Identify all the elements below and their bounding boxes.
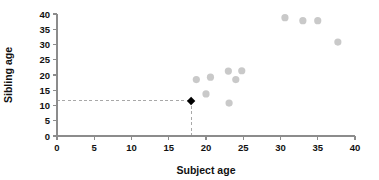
y-tick-label: 5 (45, 115, 51, 126)
y-tick-label: 20 (39, 70, 50, 81)
x-tick-label: 5 (92, 142, 98, 153)
y-axis-title: Sibling age (2, 47, 14, 103)
x-axis-ticks: 0510152025303540 (54, 136, 360, 153)
data-point (314, 17, 321, 24)
highlighted-data-point (187, 97, 195, 105)
data-point (207, 74, 214, 81)
y-tick-label: 0 (45, 131, 50, 142)
y-axis-ticks: 0510152025303540 (39, 9, 57, 142)
x-axis-title: Subject age (177, 164, 236, 176)
data-point (238, 67, 245, 74)
y-tick-label: 15 (39, 85, 50, 96)
x-tick-label: 25 (238, 142, 249, 153)
data-point (202, 90, 209, 97)
y-tick-label: 35 (39, 24, 50, 35)
axes-group: 0510152025303540 0510152025303540 (39, 9, 360, 154)
x-tick-label: 35 (312, 142, 323, 153)
x-tick-label: 40 (350, 142, 361, 153)
x-tick-label: 15 (163, 142, 174, 153)
data-point (225, 99, 232, 106)
data-point (299, 17, 306, 24)
data-point (334, 38, 341, 45)
guide-lines-group (57, 101, 191, 136)
x-tick-label: 10 (126, 142, 137, 153)
y-tick-label: 10 (39, 100, 50, 111)
x-tick-label: 30 (275, 142, 286, 153)
data-points-group (187, 14, 342, 107)
scatter-plot-canvas: 0510152025303540 0510152025303540 Subjec… (0, 0, 379, 180)
x-tick-label: 0 (54, 142, 59, 153)
data-point (232, 76, 239, 83)
y-tick-label: 40 (39, 9, 50, 20)
y-tick-label: 25 (39, 54, 50, 65)
data-point (281, 14, 288, 21)
y-tick-label: 30 (39, 39, 50, 50)
x-tick-label: 20 (201, 142, 212, 153)
data-point (193, 76, 200, 83)
data-point (225, 67, 232, 74)
scatter-plot-figure: 0510152025303540 0510152025303540 Subjec… (0, 0, 379, 180)
